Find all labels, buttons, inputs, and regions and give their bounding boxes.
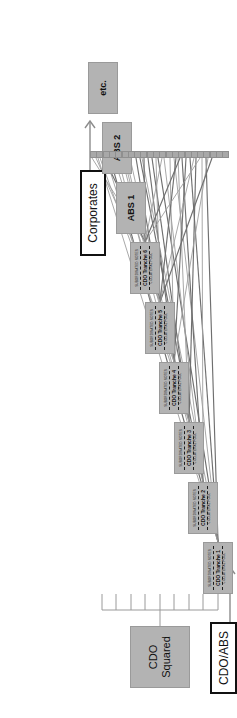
tranche-label: CDO Tranche 6 (142, 250, 148, 286)
cdo-squared-node[interactable]: CDO Squared (130, 626, 164, 688)
etc-label: etc. (98, 80, 108, 96)
pool-node-cdo-tranche-4[interactable]: SUBORDINATED NOTES CDO Tranche 4 COLLATE… (159, 362, 164, 414)
corporate-square[interactable] (159, 151, 164, 158)
tranche-label: CDO Tranche 5 (157, 310, 163, 346)
cdo-squared-label-line2: Squared (160, 636, 164, 678)
cdo-squared-label-line1: CDO (147, 636, 160, 678)
abs-label: ABS 1 (126, 195, 136, 222)
corporates-arrow (85, 121, 95, 170)
dashed-rule (155, 306, 156, 350)
corporates-label-box[interactable]: Corporates (80, 170, 106, 256)
tranche-subtext-top: SUBORDINATED NOTES (151, 309, 155, 347)
pool-node-abs-2[interactable]: ABS 2 (102, 122, 132, 174)
spine-lines (102, 594, 164, 626)
tranche-subtext-top: SUBORDINATED NOTES (136, 249, 140, 287)
corporates-label-text: Corporates (86, 183, 100, 242)
dashed-rule (140, 246, 141, 290)
tranche-subtext-bottom: COLLATERAL POOL (150, 253, 154, 284)
pool-node-cdo-tranche-6[interactable]: SUBORDINATED NOTES CDO Tranche 6 COLLATE… (130, 242, 160, 294)
pool-node-etc[interactable]: etc. (88, 62, 118, 114)
pool-node-cdo-tranche-5[interactable]: SUBORDINATED NOTES CDO Tranche 5 COLLATE… (145, 302, 164, 354)
pool-node-abs-1[interactable]: ABS 1 (116, 182, 146, 234)
cdo-squared-diagram: CDO Squared CDO/ABS Corporates SUBORDINA… (78, 0, 164, 718)
